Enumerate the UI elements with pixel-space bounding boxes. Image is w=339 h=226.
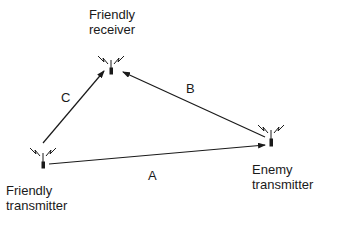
edge-c-label: C — [61, 90, 70, 105]
edge-b-label: B — [186, 81, 195, 96]
friendly-transmitter-label-line2: transmitter — [6, 198, 82, 213]
friendly-receiver-label: Friendly receiver — [84, 7, 140, 37]
enemy-transmitter-label: Enemy transmitter — [252, 162, 330, 192]
enemy-transmitter-label-line2: transmitter — [252, 177, 330, 192]
friendly-receiver-label-line1: Friendly — [84, 7, 140, 22]
edge-c-line — [43, 71, 104, 143]
enemy-transmitter-label-line1: Enemy — [252, 162, 330, 177]
friendly-receiver-label-line2: receiver — [84, 22, 140, 37]
receiver-antenna-icon — [98, 56, 124, 74]
friendly-transmitter-label: Friendly transmitter — [6, 183, 82, 213]
edge-a-line — [49, 145, 265, 164]
friendly-transmitter-label-line1: Friendly — [6, 183, 82, 198]
edge-a-label: A — [148, 168, 157, 183]
friendly-transmitter-antenna-icon — [30, 148, 56, 168]
